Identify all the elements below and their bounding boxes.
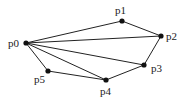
node-p4 [103, 77, 108, 82]
edge-p1-p2 [122, 21, 161, 36]
polygon-graph: p0p1p2p3p4p5 [0, 0, 187, 99]
node-label-p2: p2 [166, 30, 177, 42]
label-group: p0p1p2p3p4p5 [8, 4, 177, 97]
node-label-p3: p3 [151, 62, 163, 74]
edge-p0-p3 [26, 43, 144, 65]
node-p5 [45, 68, 50, 73]
node-label-p4: p4 [100, 85, 112, 97]
node-label-p5: p5 [34, 73, 46, 85]
edge-p3-p4 [106, 65, 144, 80]
node-p1 [119, 18, 124, 23]
node-p3 [141, 62, 146, 67]
edge-p0-p2 [26, 36, 161, 43]
node-p2 [158, 33, 163, 38]
edge-p0-p5 [26, 43, 48, 71]
node-p0 [23, 40, 28, 45]
node-label-p1: p1 [115, 4, 126, 16]
edge-p0-p1 [26, 21, 122, 43]
node-label-p0: p0 [8, 37, 20, 49]
edge-p2-p3 [144, 36, 161, 65]
diagram-canvas: p0p1p2p3p4p5 [0, 0, 187, 99]
